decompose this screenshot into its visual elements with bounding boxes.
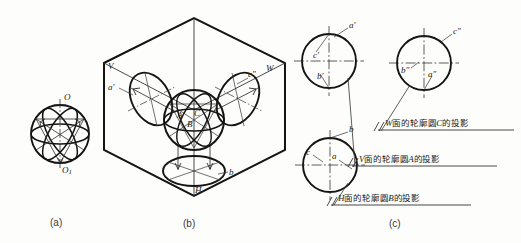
- annotation-leaders: [327, 78, 514, 206]
- label-top-c: c: [306, 148, 310, 157]
- label-ellipse-w: c″: [248, 70, 256, 79]
- label-pole-o1: O1: [62, 166, 72, 176]
- caption-b: (b): [183, 219, 195, 229]
- top-view-leader-a: [339, 160, 352, 169]
- label-pole-o: O: [64, 93, 71, 102]
- label-plane-h: H: [195, 186, 202, 195]
- caption-c: (c): [389, 219, 401, 229]
- top-view-leader-b: [330, 132, 348, 138]
- annotation-note-w: W面的轮廓圆C的投影: [385, 119, 469, 128]
- label-ellipse-v: a′: [108, 83, 114, 92]
- annotation-note-h: H面的轮廓圆B的投影: [338, 194, 420, 203]
- top-view-leader-c: [313, 155, 323, 162]
- panel-a-sphere: [31, 99, 89, 170]
- panel-c-orthographic-views: [294, 26, 514, 206]
- ray-to-w-arrow: [249, 88, 256, 95]
- leader-note-v: [348, 78, 355, 166]
- label-top-b: b: [349, 125, 354, 134]
- box-outline: [104, 18, 285, 196]
- ray-to-v-arrow: [133, 88, 140, 95]
- label-side-a-double-prime: a″: [428, 70, 436, 79]
- caption-a: (a): [50, 218, 62, 228]
- label-circle-c: C: [194, 109, 200, 118]
- label-front-b-prime: b′: [317, 72, 323, 81]
- ellipse-v-minor-axis: [145, 73, 157, 126]
- front-view-group: [294, 26, 364, 96]
- panel-b-projection-box: [104, 18, 285, 196]
- front-view-leader-a: [334, 28, 348, 37]
- ray-to-w: [212, 88, 258, 112]
- label-plane-v: V: [108, 62, 114, 71]
- label-top-a: a: [332, 152, 337, 161]
- annotation-note-v: V面的轮廓圆A的投影: [359, 155, 440, 164]
- label-circle-a: A: [177, 111, 183, 120]
- side-view-group: [389, 28, 459, 98]
- label-circle-b: B: [187, 120, 193, 129]
- label-plane-w: W: [266, 64, 274, 73]
- label-front-c-prime: c′: [313, 51, 319, 60]
- label-side-b-double-prime: b″: [401, 66, 409, 75]
- side-view-leader-c: [441, 34, 452, 42]
- label-front-a-prime: a′: [349, 21, 355, 30]
- leader-ellipse-v: [119, 88, 133, 95]
- label-ellipse-h: b: [229, 168, 234, 177]
- box-fold-left: [104, 63, 194, 110]
- figure-canvas: O O1 V W H a′ c″ b A B C a′ c′ b′ c″ b″ …: [0, 0, 521, 243]
- label-side-c-double-prime: c″: [453, 27, 461, 36]
- leader-ellipse-h: [218, 172, 228, 174]
